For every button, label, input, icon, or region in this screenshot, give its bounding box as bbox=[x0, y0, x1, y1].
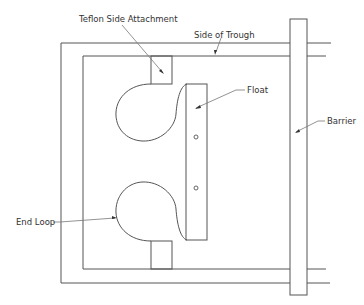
trough-diagram: Teflon Side Attachment Side of Trough Fl… bbox=[0, 0, 364, 305]
barrier bbox=[290, 19, 307, 295]
leader-float bbox=[195, 90, 245, 109]
label-side-of-trough: Side of Trough bbox=[194, 30, 255, 40]
float-hole-top bbox=[194, 135, 198, 139]
float-hole-bottom bbox=[194, 186, 198, 190]
arrowhead-icon bbox=[195, 105, 201, 109]
label-barrier: Barrier bbox=[327, 116, 356, 126]
teflon-side-attachment-bottom bbox=[151, 241, 172, 269]
label-teflon-side-attachment: Teflon Side Attachment bbox=[78, 14, 178, 24]
leader-teflon-side-attachment bbox=[122, 25, 164, 74]
end-loop-top bbox=[116, 84, 187, 141]
leader-end-loop bbox=[53, 216, 117, 222]
label-float: Float bbox=[247, 85, 269, 95]
leader-side-of-trough bbox=[214, 38, 221, 55]
arrowhead-icon bbox=[214, 50, 217, 55]
end-loop-bottom bbox=[116, 182, 187, 241]
label-end-loop: End Loop bbox=[16, 217, 55, 227]
